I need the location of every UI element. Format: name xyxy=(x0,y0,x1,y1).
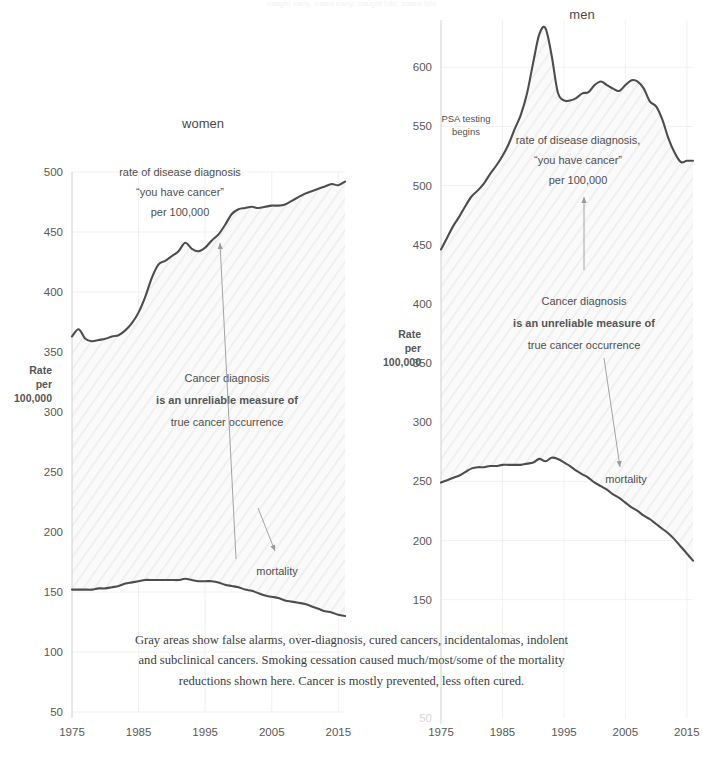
y-tick-label: 200 xyxy=(44,526,63,538)
x-tick-label: 2015 xyxy=(326,726,352,738)
y-tick-label: 250 xyxy=(44,466,63,478)
psa-label-line: PSA testing xyxy=(441,113,490,124)
mortality-label-line: mortality xyxy=(605,473,647,485)
y-tick-label: 300 xyxy=(413,416,432,428)
incidence-label-line: rate of disease diagnosis, xyxy=(516,134,641,146)
y-tick-label: 400 xyxy=(44,286,63,298)
incidence-label-line: per 100,000 xyxy=(549,174,608,186)
panel-title: men xyxy=(569,7,594,22)
y-tick-label: 250 xyxy=(413,475,432,487)
x-tick-label: 1995 xyxy=(551,726,577,738)
x-tick-label: 1985 xyxy=(490,726,516,738)
x-tick-label: 1995 xyxy=(192,726,218,738)
caption-line-1: Gray areas show false alarms, over-diagn… xyxy=(0,630,703,650)
x-tick-label: 2015 xyxy=(674,726,700,738)
y-axis-title-line: 100,000 xyxy=(14,392,52,404)
caption-line-3: reductions shown here. Cancer is mostly … xyxy=(0,671,703,691)
y-tick-label: 550 xyxy=(413,120,432,132)
psa-label-line: begins xyxy=(452,126,480,137)
y-tick-label: 450 xyxy=(413,239,432,251)
panel-title: women xyxy=(181,116,224,131)
y-tick-label: 150 xyxy=(413,594,432,606)
y-tick-label: 500 xyxy=(44,166,63,178)
gray-area-label-line: Cancer diagnosis xyxy=(542,295,627,307)
x-tick-label: 1975 xyxy=(428,726,454,738)
incidence-label-line: per 100,000 xyxy=(151,206,210,218)
incidence-label-line: rate of disease diagnosis xyxy=(119,166,241,178)
y-axis-title-line: 100,000 xyxy=(383,356,421,368)
mortality-label-line: mortality xyxy=(256,565,298,577)
y-tick-label: 200 xyxy=(413,535,432,547)
incidence-label-line: “you have cancer” xyxy=(136,186,224,198)
incidence-label-line: “you have cancer” xyxy=(534,154,622,166)
caption-line-2: and subclinical cancers. Smoking cessati… xyxy=(0,650,703,670)
y-axis-title-line: per xyxy=(405,342,421,354)
y-tick-label: 150 xyxy=(44,586,63,598)
gray-area-label-line: is an unreliable measure of xyxy=(513,317,655,329)
chart-caption: Gray areas show false alarms, over-diagn… xyxy=(0,630,703,691)
y-axis-title-line: Rate xyxy=(29,364,52,376)
y-tick-label: 400 xyxy=(413,298,432,310)
x-tick-label: 2005 xyxy=(259,726,285,738)
gray-area-label-line: true cancer occurrence xyxy=(171,416,284,428)
x-tick-label: 1975 xyxy=(59,726,85,738)
y-tick-label: 500 xyxy=(413,180,432,192)
x-tick-label: 1985 xyxy=(126,726,152,738)
y-tick-label: 50 xyxy=(50,706,63,718)
x-tick-label: 2005 xyxy=(613,726,639,738)
gray-area-label-line: true cancer occurrence xyxy=(528,339,641,351)
gray-area-label-line: is an unreliable measure of xyxy=(156,394,298,406)
y-tick-label: 300 xyxy=(44,406,63,418)
y-tick-label: 450 xyxy=(44,226,63,238)
y-tick-label: 600 xyxy=(413,61,432,73)
y-tick-label-faint: 50 xyxy=(419,712,432,724)
y-tick-label: 350 xyxy=(44,346,63,358)
y-axis-title-line: Rate xyxy=(398,328,421,340)
y-axis-title-line: per xyxy=(36,378,52,390)
